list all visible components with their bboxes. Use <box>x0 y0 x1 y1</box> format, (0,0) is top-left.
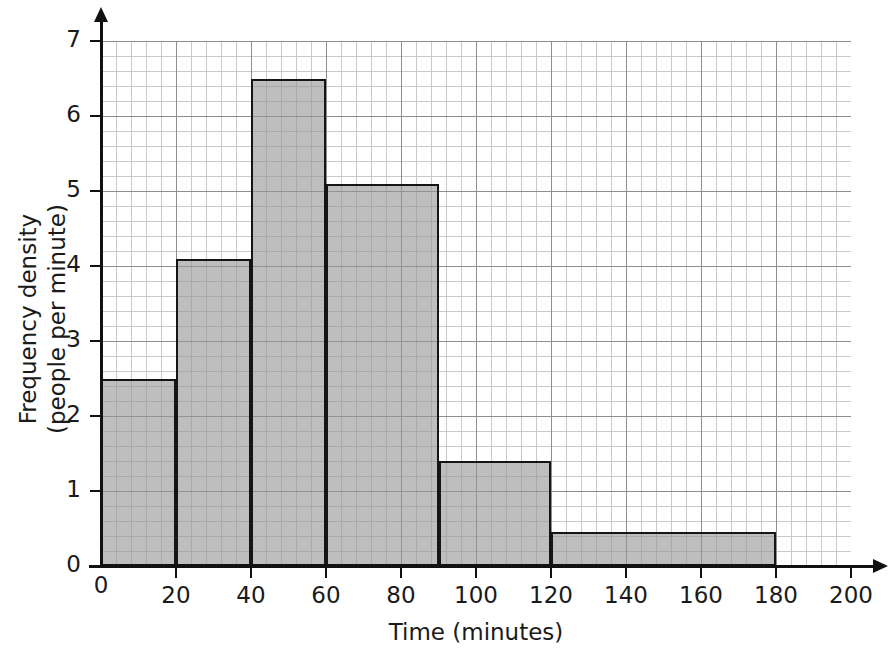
y-axis-tick <box>90 415 101 417</box>
y-axis-tick-label: 7 <box>43 26 81 52</box>
x-axis-tick <box>625 567 627 578</box>
x-axis-tick <box>700 567 702 578</box>
y-axis-tick <box>90 40 101 42</box>
y-axis-tick-label: 6 <box>43 101 81 127</box>
y-axis-tick <box>90 490 101 492</box>
y-axis-tick <box>90 265 101 267</box>
x-axis-tick-label: 200 <box>821 582 881 608</box>
x-axis-tick <box>325 567 327 578</box>
x-axis-tick-label: 180 <box>746 582 806 608</box>
histogram-bar <box>176 259 251 567</box>
y-axis-line <box>100 22 103 566</box>
x-axis-title: Time (minutes) <box>326 619 626 645</box>
x-axis-tick-label: 120 <box>521 582 581 608</box>
x-axis-tick-label: 80 <box>371 582 431 608</box>
x-axis-tick <box>475 567 477 578</box>
x-axis-tick <box>850 567 852 578</box>
x-axis-tick-label: 40 <box>221 582 281 608</box>
y-axis-arrow-icon <box>94 7 108 22</box>
histogram-bar <box>439 461 552 566</box>
x-axis-tick <box>550 567 552 578</box>
y-axis-tick <box>90 190 101 192</box>
histogram-bar <box>551 532 776 566</box>
y-axis-title: Frequency density (people per minute) <box>14 204 73 434</box>
x-axis-line <box>89 565 873 568</box>
y-axis-tick-label: 5 <box>43 176 81 202</box>
y-axis-title-line1: Frequency density <box>15 213 41 423</box>
x-axis-tick <box>400 567 402 578</box>
x-axis-tick-label: 0 <box>71 572 131 598</box>
y-axis-tick <box>90 115 101 117</box>
y-axis-title-line2: (people per minute) <box>44 204 70 434</box>
x-axis-tick <box>775 567 777 578</box>
x-axis-tick <box>250 567 252 578</box>
histogram-bar <box>101 379 176 567</box>
x-axis-arrow-icon <box>873 559 888 573</box>
x-axis-tick-label: 160 <box>671 582 731 608</box>
x-axis-tick <box>175 567 177 578</box>
x-axis-tick-label: 60 <box>296 582 356 608</box>
x-axis-tick-label: 140 <box>596 582 656 608</box>
y-axis-tick-label: 1 <box>43 476 81 502</box>
histogram-bar <box>251 79 326 567</box>
histogram-bar <box>326 184 439 567</box>
y-axis-tick <box>90 340 101 342</box>
x-axis-tick-label: 20 <box>146 582 206 608</box>
x-axis-tick-label: 100 <box>446 582 506 608</box>
